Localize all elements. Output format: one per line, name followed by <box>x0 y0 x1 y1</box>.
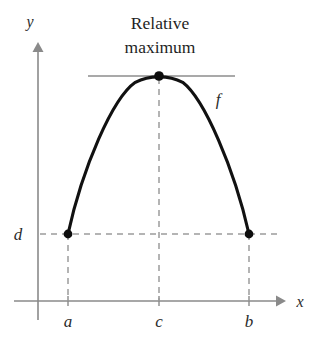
point-right-endpoint <box>245 230 254 239</box>
relative-maximum-figure: y x a c b d f <box>0 0 326 339</box>
y-axis-label: y <box>24 13 34 31</box>
x-axis-arrowhead <box>276 296 286 307</box>
x-axis-label: x <box>295 293 303 310</box>
point-left-endpoint <box>64 230 73 239</box>
tick-label-b: b <box>245 312 254 331</box>
y-axis-arrowhead <box>33 42 44 52</box>
relative-maximum-annotation-line2: maximum <box>125 37 196 57</box>
point-relative-maximum <box>154 71 164 81</box>
tick-label-c: c <box>155 312 163 331</box>
graph-canvas: y x a c b d f <box>0 0 326 339</box>
tick-label-a: a <box>64 312 73 331</box>
relative-maximum-annotation-line1: Relative <box>131 13 190 33</box>
tick-label-d: d <box>14 225 23 244</box>
curve-label-f: f <box>216 90 223 109</box>
dashed-guides-group <box>40 78 282 301</box>
axes-group <box>14 42 286 320</box>
